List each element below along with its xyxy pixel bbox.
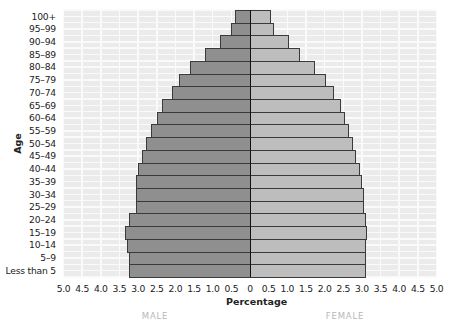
age-label: 25–29 (0, 201, 56, 214)
age-label: 20–24 (0, 214, 56, 227)
x-tick-label: 4.5 (75, 283, 89, 294)
female-bar (250, 48, 300, 62)
female-bar (250, 61, 315, 75)
female-bar (250, 150, 356, 164)
age-label: Less than 5 (0, 265, 56, 278)
x-tick-label: 3.5 (374, 283, 388, 294)
male-bar (125, 226, 250, 240)
female-bar (250, 86, 334, 100)
male-bar (127, 239, 250, 253)
age-label: 5–9 (0, 252, 56, 265)
male-bar (136, 188, 250, 202)
female-bar (250, 137, 353, 151)
age-label: 60–64 (0, 112, 56, 125)
x-tick-label: 4.0 (94, 283, 108, 294)
female-bar (250, 252, 366, 266)
male-bar (190, 61, 250, 75)
male-bar (172, 86, 250, 100)
male-bar (129, 264, 250, 278)
age-label: 35–39 (0, 176, 56, 189)
age-label: 100+ (0, 11, 56, 24)
x-tick-label: 3.0 (355, 283, 369, 294)
age-label: 95–99 (0, 23, 56, 36)
age-label: 10–14 (0, 239, 56, 252)
age-label: 80–84 (0, 61, 56, 74)
female-bar (250, 112, 345, 126)
female-bar (250, 74, 326, 88)
male-bar (151, 124, 250, 138)
female-bar (250, 201, 364, 215)
female-bar (250, 239, 366, 253)
male-bar (235, 10, 250, 24)
x-tick-label: 1.5 (187, 283, 201, 294)
female-bar (250, 124, 349, 138)
age-label: 65–69 (0, 100, 56, 113)
female-bar (250, 23, 274, 37)
x-tick-label: 0.5 (262, 283, 276, 294)
x-tick-label: 2.0 (169, 283, 183, 294)
x-tick-label: 2.5 (336, 283, 350, 294)
female-bar (250, 175, 362, 189)
x-tick-label: 3.5 (113, 283, 127, 294)
x-tick-label: 0.5 (224, 283, 238, 294)
male-bar (157, 112, 250, 126)
male-bar (142, 150, 250, 164)
y-axis-title: Age (12, 129, 23, 159)
male-bar (146, 137, 250, 151)
x-tick-label: 4.5 (411, 283, 425, 294)
male-bar (205, 48, 250, 62)
male-bar (138, 163, 250, 177)
male-bar (136, 201, 250, 215)
male-bar (220, 35, 250, 49)
x-tick-label: 2.0 (318, 283, 332, 294)
female-bar (250, 213, 366, 227)
x-axis-title: Percentage (226, 296, 287, 307)
age-label: 85–89 (0, 49, 56, 62)
male-bar (162, 99, 250, 113)
female-bar (250, 99, 341, 113)
male-bar (231, 23, 250, 37)
male-bar (179, 74, 250, 88)
age-label: 90–94 (0, 36, 56, 49)
male-bar (129, 252, 250, 266)
male-bar (129, 213, 250, 227)
age-label: 55–59 (0, 125, 56, 138)
age-label: 75–79 (0, 74, 56, 87)
x-tick-label: 5.0 (430, 283, 444, 294)
male-bar (136, 175, 250, 189)
female-bar (250, 10, 271, 24)
female-bar (250, 188, 364, 202)
age-label: 70–74 (0, 87, 56, 100)
male-label: MALE (142, 311, 168, 319)
x-tick-label: 2.5 (150, 283, 164, 294)
age-label: 50–54 (0, 138, 56, 151)
female-bar (250, 264, 366, 278)
x-tick-label: 3.0 (131, 283, 145, 294)
female-bar (250, 226, 367, 240)
age-label: 30–34 (0, 189, 56, 202)
female-bar (250, 35, 289, 49)
female-label: FEMALE (326, 311, 364, 319)
x-tick-label: 1.5 (299, 283, 313, 294)
age-label: 45–49 (0, 150, 56, 163)
x-tick-label: 1.0 (206, 283, 220, 294)
x-tick-label: 4.0 (392, 283, 406, 294)
x-tick-label: 5.0 (57, 283, 71, 294)
female-bar (250, 163, 360, 177)
x-tick-label: 0 (247, 283, 253, 294)
zero-axis-line (250, 10, 252, 277)
age-label: 40–44 (0, 163, 56, 176)
population-pyramid-chart: 100+95–9990–9485–8980–8475–7970–7465–696… (0, 0, 453, 319)
x-tick-label: 1.0 (280, 283, 294, 294)
age-label: 15–19 (0, 227, 56, 240)
